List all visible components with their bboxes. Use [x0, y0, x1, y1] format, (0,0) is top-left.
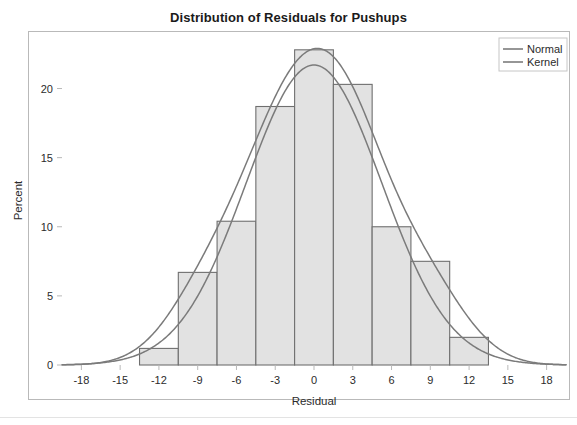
bottom-divider	[0, 417, 577, 418]
x-tick-label: 15	[502, 374, 514, 386]
chart-legend: NormalKernel	[499, 38, 567, 71]
y-tick-label: 15	[41, 152, 53, 164]
histogram-bar	[411, 261, 450, 365]
x-tick-label: -3	[270, 374, 280, 386]
y-tick-label: 5	[47, 290, 53, 302]
x-tick-label: 0	[311, 374, 317, 386]
x-tick-label: 12	[463, 374, 475, 386]
y-tick-label: 10	[41, 221, 53, 233]
x-tick-label: 18	[540, 374, 552, 386]
legend-label-normal: Normal	[527, 43, 562, 55]
histogram-bar	[295, 50, 334, 365]
histogram-bar	[372, 227, 411, 365]
x-tick-label: -15	[112, 374, 128, 386]
y-axis: 05101520Percent	[12, 83, 62, 371]
x-tick-label: 3	[350, 374, 356, 386]
x-tick-label: -9	[193, 374, 203, 386]
legend-label-kernel: Kernel	[527, 56, 559, 68]
chart-figure: Distribution of Residuals for Pushups -1…	[0, 0, 577, 425]
y-tick-label: 20	[41, 83, 53, 95]
y-tick-label: 0	[47, 359, 53, 371]
x-axis: -18-15-12-9-6-30369121518Residual	[73, 365, 552, 407]
x-axis-title: Residual	[292, 395, 337, 407]
chart-plot: -18-15-12-9-6-30369121518Residual 051015…	[0, 0, 577, 425]
histogram-bar	[333, 84, 372, 365]
y-axis-title: Percent	[12, 180, 24, 220]
x-tick-label: 9	[427, 374, 433, 386]
histogram-bar	[178, 272, 217, 365]
x-tick-label: -6	[232, 374, 242, 386]
histogram-bars	[140, 50, 489, 365]
x-tick-label: -12	[151, 374, 167, 386]
histogram-bar	[256, 107, 295, 366]
x-tick-label: 6	[388, 374, 394, 386]
x-tick-label: -18	[73, 374, 89, 386]
